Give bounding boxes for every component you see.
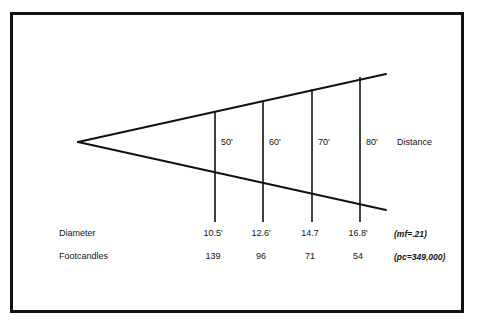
footcandles-row-label: Footcandles xyxy=(59,251,108,262)
footcandles-value-80: 54 xyxy=(353,251,363,262)
maintenance-factor-note: (mf=.21) xyxy=(394,229,427,240)
cone-upper-edge xyxy=(78,74,386,142)
footcandles-value-70: 71 xyxy=(305,251,315,262)
diameter-row-label: Diameter xyxy=(59,228,96,239)
distance-label-80: 80' xyxy=(366,137,378,148)
distance-axis-label: Distance xyxy=(397,137,432,148)
diameter-value-50: 10.5' xyxy=(203,228,222,239)
distance-label-70: 70' xyxy=(318,137,330,148)
cone-lower-edge xyxy=(78,142,386,210)
diameter-value-60: 12.6' xyxy=(251,228,270,239)
distance-label-60: 60' xyxy=(269,137,281,148)
footcandles-value-50: 139 xyxy=(205,251,220,262)
footcandles-value-60: 96 xyxy=(256,251,266,262)
diameter-value-80: 16.8' xyxy=(348,228,367,239)
figure-canvas: 50' 60' 70' 80' Distance Diameter 10.5' … xyxy=(0,0,477,325)
diameter-value-70: 14.7 xyxy=(301,228,319,239)
peak-candlepower-note: (pc=349,000) xyxy=(394,252,445,263)
beam-cone-drawing xyxy=(0,0,477,325)
distance-label-50: 50' xyxy=(221,137,233,148)
